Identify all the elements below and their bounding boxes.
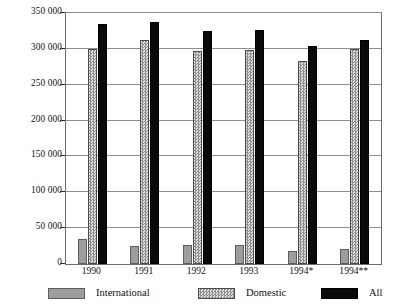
x-axis-tick-label: 1992 (166, 266, 226, 276)
bar-all-1992 (203, 31, 212, 264)
legend-item-all[interactable]: All (321, 285, 382, 301)
bar-domestic-1992 (193, 51, 202, 264)
bar-all-1993 (255, 30, 264, 265)
legend-label: International (96, 288, 150, 299)
bar-international-1993 (235, 245, 244, 264)
bar-domestic-1991 (140, 40, 149, 264)
x-axis-tick-label: 1994** (324, 266, 384, 276)
y-axis-tick-label: 50 000 (4, 222, 62, 231)
plot-area (65, 12, 382, 265)
bar-international-1994star (288, 251, 297, 264)
y-axis-tick-label: 150 000 (4, 150, 62, 159)
bar-all-1994starstar (360, 40, 369, 264)
bars-layer (66, 13, 381, 264)
legend-swatch-domestic (198, 288, 235, 299)
y-axis-tick-label: 350 000 (4, 7, 62, 16)
y-axis: 050 000100 000150 000200 000250 000300 0… (0, 0, 62, 306)
legend-item-international[interactable]: International (48, 285, 150, 301)
chart-legend: InternationalDomesticAll (0, 285, 401, 306)
bar-all-1990 (98, 24, 107, 264)
bar-group (340, 13, 369, 264)
legend-label: All (369, 288, 382, 299)
bar-group (130, 13, 159, 264)
bar-international-1994starstar (340, 249, 349, 264)
x-axis-tick-label: 1991 (114, 266, 174, 276)
x-axis: 19901991199219931994*1994** (65, 266, 380, 282)
legend-swatch-all (321, 288, 358, 299)
bar-domestic-1990 (88, 49, 97, 264)
legend-item-domestic[interactable]: Domestic (198, 285, 286, 301)
bar-all-1994star (308, 46, 317, 264)
x-axis-tick-label: 1994* (271, 266, 331, 276)
y-axis-tick-label: 0 (4, 258, 62, 267)
bar-all-1991 (150, 22, 159, 264)
y-axis-tick-label: 200 000 (4, 115, 62, 124)
legend-label: Domestic (246, 288, 286, 299)
bar-domestic-1994starstar (350, 49, 359, 264)
y-axis-tick-label: 100 000 (4, 186, 62, 195)
bar-international-1990 (78, 239, 87, 264)
bar-group (183, 13, 212, 264)
y-axis-tick-label: 300 000 (4, 43, 62, 52)
legend-swatch-international (48, 288, 85, 299)
bar-group (288, 13, 317, 264)
bar-chart: 050 000100 000150 000200 000250 000300 0… (0, 0, 401, 306)
bar-domestic-1993 (245, 50, 254, 264)
x-axis-tick-label: 1990 (61, 266, 121, 276)
bar-domestic-1994star (298, 61, 307, 264)
bar-international-1991 (130, 246, 139, 264)
x-axis-tick-label: 1993 (219, 266, 279, 276)
bar-group (78, 13, 107, 264)
bar-international-1992 (183, 245, 192, 264)
bar-group (235, 13, 264, 264)
y-axis-tick-label: 250 000 (4, 79, 62, 88)
